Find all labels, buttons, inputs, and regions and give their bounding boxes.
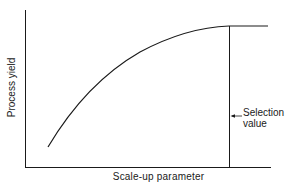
annotation-line-1: Selection [243,107,284,118]
y-axis-label: Process yield [6,53,17,123]
arrow-head-icon [231,114,236,118]
annotation-line-2: value [243,118,284,129]
x-axis-label: Scale-up parameter [0,171,295,182]
selection-value-annotation: Selection value [243,107,284,129]
yield-curve [48,26,268,147]
chart-canvas [0,0,295,188]
